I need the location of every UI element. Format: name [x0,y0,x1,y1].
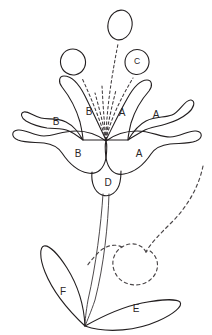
flower-diagram: B B A A B A C D E F [0,0,212,335]
anther-ellipse-top [105,8,135,42]
label-f-leaf-left: F [60,286,66,297]
label-e-leaf-right: E [133,303,140,314]
label-c-anther: C [134,56,140,66]
stem [85,194,109,326]
label-a-lower-right: A [136,148,143,159]
label-a-upper-right: A [153,109,160,120]
label-group: B B A A B A C D E F [53,56,160,313]
petal-upper-mid-right-a [106,80,151,140]
label-b-upper-left: B [53,116,60,127]
label-b-upper-mid: B [86,106,93,117]
figure-canvas: B B A A B A C D E F [0,0,212,335]
petal-lower-right-a [105,131,201,174]
label-d-ovary: D [104,177,111,188]
petal-lower-left-b [13,130,107,173]
label-b-lower-left: B [75,148,82,159]
label-a-upper-mid: A [119,107,126,118]
anther-ellipse-left [58,47,88,78]
